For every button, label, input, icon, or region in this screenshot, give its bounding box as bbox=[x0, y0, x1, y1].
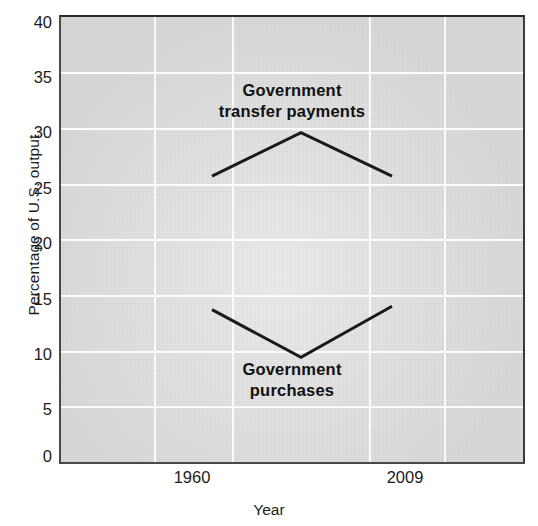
y-tick-35: 35 bbox=[16, 69, 52, 86]
y-tick-15: 15 bbox=[16, 291, 52, 308]
y-tick-30: 30 bbox=[16, 124, 52, 141]
line-government-purchases bbox=[212, 306, 392, 357]
annotation-government-transfer-payments: Government transfer payments bbox=[162, 80, 422, 122]
x-tick-1960: 1960 bbox=[147, 469, 237, 486]
y-tick-25: 25 bbox=[16, 180, 52, 197]
plot-area: Government transfer payments Government … bbox=[59, 15, 525, 464]
x-tick-2009: 2009 bbox=[360, 469, 450, 486]
y-tick-10: 10 bbox=[16, 346, 52, 363]
annotation-government-purchases: Government purchases bbox=[192, 359, 392, 401]
chart-figure: Percentage of U.S. output 40 35 30 25 20… bbox=[0, 0, 538, 526]
y-tick-5: 5 bbox=[16, 401, 52, 418]
line-government-transfer-payments bbox=[212, 133, 392, 176]
x-axis-title: Year bbox=[0, 501, 538, 519]
y-axis-tick-labels: 40 35 30 25 20 15 10 5 0 bbox=[12, 0, 52, 526]
y-tick-40: 40 bbox=[16, 14, 52, 31]
y-tick-0: 0 bbox=[16, 448, 52, 465]
y-tick-20: 20 bbox=[16, 235, 52, 252]
plot-inner: Government transfer payments Government … bbox=[61, 17, 523, 462]
